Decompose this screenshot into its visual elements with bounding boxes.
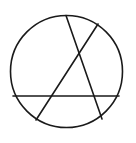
geometric-figure-canvas [0,0,136,143]
